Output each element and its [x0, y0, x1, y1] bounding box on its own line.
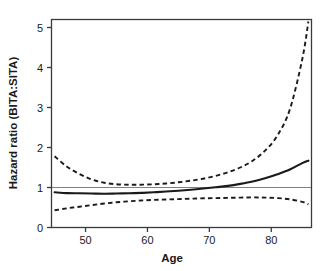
- y-tick-label: 1: [37, 182, 43, 194]
- hazard-ratio-figure: 012345 50607080 Age Hazard ratio (BITA:S…: [0, 0, 324, 271]
- y-tick-label: 4: [37, 62, 43, 74]
- x-tick-label: 60: [141, 234, 153, 246]
- x-tick-label: 50: [79, 234, 91, 246]
- x-tick-label: 70: [203, 234, 215, 246]
- y-tick-label: 2: [37, 142, 43, 154]
- x-tick-label: 80: [265, 234, 277, 246]
- x-axis-title: Age: [161, 252, 183, 264]
- y-tick-label: 0: [37, 222, 43, 234]
- y-tick-label: 3: [37, 102, 43, 114]
- y-axis-title: Hazard ratio (BITA:SITA): [7, 57, 19, 190]
- hazard-ratio-plot: 012345 50607080 Age Hazard ratio (BITA:S…: [0, 0, 324, 271]
- y-tick-label: 5: [37, 22, 43, 34]
- figure-background: [0, 0, 324, 271]
